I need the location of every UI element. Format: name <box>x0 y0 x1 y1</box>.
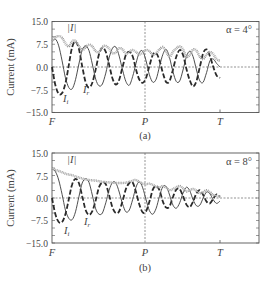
ytick-15-b: 15.0 <box>31 149 48 159</box>
curve-label-real-b: Ir <box>83 216 91 229</box>
curve-label-imag-b: Ii <box>63 225 70 238</box>
curve-abs-a <box>52 36 220 61</box>
panel-label-a: (a) <box>139 130 151 142</box>
panel-b: 15.0 7.5 0.0 −7.5 −15.0 Current (mA) F P… <box>5 149 259 274</box>
xtick-F-a: F <box>48 116 56 127</box>
ytick-15-a: 15.0 <box>31 17 48 27</box>
ytick-7.5-b: 7.5 <box>36 172 48 182</box>
curve-imag-b <box>52 179 220 223</box>
y-axis-label-a: Current (mA) <box>5 38 17 96</box>
panel-a: 15.0 7.5 0.0 −7.5 −15.0 Current (mA) F P… <box>5 17 259 142</box>
curve-abs-a-highlight <box>52 36 220 61</box>
ytick-7.5-a: 7.5 <box>36 40 48 50</box>
curve-label-abs-b: |I| <box>67 154 76 165</box>
xtick-T-b: T <box>217 247 224 258</box>
alpha-annotation-a: α = 4° <box>226 24 252 35</box>
xtick-F-b: F <box>48 247 56 258</box>
alpha-annotation-b: α = 8° <box>226 156 252 167</box>
ytick-neg15-a: −15.0 <box>26 108 48 118</box>
ytick-0-b: 0.0 <box>36 194 48 204</box>
figure: 15.0 7.5 0.0 −7.5 −15.0 Current (mA) F P… <box>0 0 268 283</box>
ytick-neg7.5-b: −7.5 <box>31 216 48 226</box>
y-axis-label-b: Current (mA) <box>5 169 17 227</box>
ytick-neg7.5-a: −7.5 <box>31 86 48 96</box>
curve-real-a <box>52 39 220 90</box>
xtick-P-b: P <box>141 247 149 258</box>
curve-label-abs-a: |I| <box>67 22 76 33</box>
curve-label-real-a: Ir <box>82 84 90 97</box>
xtick-P-a: P <box>141 116 149 127</box>
ytick-neg15-b: −15.0 <box>26 239 48 249</box>
ytick-0-a: 0.0 <box>36 63 48 73</box>
curve-label-imag-a: Ii <box>62 93 69 106</box>
panel-label-b: (b) <box>139 262 152 274</box>
curve-real-b <box>52 169 220 221</box>
xtick-T-a: T <box>217 116 224 127</box>
